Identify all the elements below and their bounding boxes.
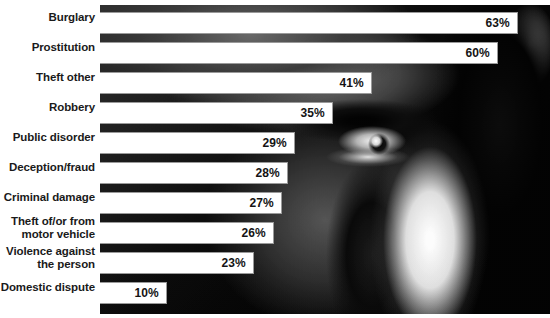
bar: 60%	[100, 42, 498, 64]
bar-value-label: 23%	[221, 256, 253, 270]
category-label-line: motor vehicle	[0, 228, 95, 241]
category-label-line: Violence against	[0, 245, 95, 258]
category-label: Burglary	[0, 11, 95, 24]
bar-value-label: 63%	[485, 16, 517, 30]
bar-value-label: 41%	[339, 76, 371, 90]
bar: 10%	[100, 282, 167, 304]
category-label-line: Public disorder	[0, 131, 95, 144]
bar-value-label: 27%	[249, 196, 281, 210]
category-label-line: the person	[0, 258, 95, 271]
bar: 27%	[100, 192, 282, 214]
category-label-line: Prostitution	[0, 41, 95, 54]
category-label: Theft other	[0, 71, 95, 84]
bar-chart: 63%60%41%35%29%28%27%26%23%10% BurglaryP…	[0, 0, 550, 318]
category-label-column: BurglaryProstitutionTheft otherRobberyPu…	[0, 0, 100, 318]
category-label-line: Theft other	[0, 71, 95, 84]
bar: 63%	[100, 12, 518, 34]
bar: 29%	[100, 132, 295, 154]
category-label: Theft of/or frommotor vehicle	[0, 215, 95, 240]
category-label-line: Deception/fraud	[0, 161, 95, 174]
category-label-line: Theft of/or from	[0, 215, 95, 228]
category-label: Public disorder	[0, 131, 95, 144]
category-label: Deception/fraud	[0, 161, 95, 174]
bar: 23%	[100, 252, 254, 274]
bar: 28%	[100, 162, 288, 184]
category-label: Prostitution	[0, 41, 95, 54]
category-label-line: Burglary	[0, 11, 95, 24]
bar-value-label: 10%	[134, 286, 166, 300]
category-label-line: Domestic dispute	[0, 281, 95, 294]
bar-value-label: 26%	[241, 226, 273, 240]
category-label-line: Criminal damage	[0, 191, 95, 204]
bar-value-label: 35%	[300, 106, 332, 120]
category-label: Criminal damage	[0, 191, 95, 204]
category-label: Robbery	[0, 101, 95, 114]
chart-plot-area: 63%60%41%35%29%28%27%26%23%10%	[100, 5, 550, 314]
category-label: Domestic dispute	[0, 281, 95, 294]
bar-value-label: 29%	[262, 136, 294, 150]
bar: 35%	[100, 102, 333, 124]
category-label: Violence againstthe person	[0, 245, 95, 270]
bar-value-label: 28%	[255, 166, 287, 180]
bar: 41%	[100, 72, 372, 94]
bar-value-label: 60%	[465, 46, 497, 60]
category-label-line: Robbery	[0, 101, 95, 114]
bar: 26%	[100, 222, 274, 244]
